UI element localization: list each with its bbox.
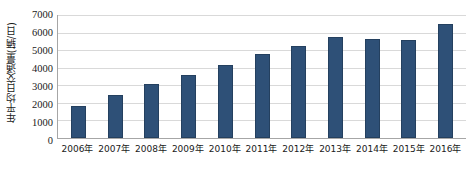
y-axis-tick-labels: 01000200030004000500060007000 xyxy=(20,14,56,140)
y-axis-tick-label: 3000 xyxy=(32,81,53,92)
bar xyxy=(255,54,270,138)
bar xyxy=(365,39,380,138)
y-axis-tick-label: 0 xyxy=(48,135,53,146)
x-axis-tick-label: 2015年 xyxy=(390,142,427,155)
x-axis-tick-label: 2016年 xyxy=(427,142,464,155)
x-axis-tick-label: 2009年 xyxy=(169,142,206,155)
x-axis-tick-label: 2013年 xyxy=(317,142,354,155)
bar-slot xyxy=(280,15,317,138)
y-axis-tick-label: 7000 xyxy=(32,9,53,20)
plot-area xyxy=(57,15,466,139)
bar-series xyxy=(58,15,466,138)
bar xyxy=(144,84,159,138)
bar xyxy=(71,106,86,138)
y-axis-tick-label: 2000 xyxy=(32,99,53,110)
bar-slot xyxy=(207,15,244,138)
bar-slot xyxy=(133,15,170,138)
bar xyxy=(438,24,453,138)
y-axis-tick-label: 4000 xyxy=(32,63,53,74)
bar-slot xyxy=(427,15,464,138)
y-axis-tick-label: 6000 xyxy=(32,27,53,38)
bar-slot xyxy=(317,15,354,138)
bar-slot xyxy=(244,15,281,138)
x-axis-tick-label: 2011年 xyxy=(243,142,280,155)
bar-slot xyxy=(60,15,97,138)
y-axis-tick-label: 5000 xyxy=(32,45,53,56)
x-axis-tick-label: 2012年 xyxy=(280,142,317,155)
chart-figure: 年平均日交通量(辆/日) 010002000300040005000600070… xyxy=(0,0,471,172)
x-axis-tick-label: 2007年 xyxy=(96,142,133,155)
bar xyxy=(108,95,123,138)
x-axis-tick-label: 2010年 xyxy=(206,142,243,155)
x-axis-tick-label: 2014年 xyxy=(354,142,391,155)
bar xyxy=(401,40,416,138)
bar-slot xyxy=(170,15,207,138)
bar xyxy=(181,75,196,138)
x-axis-tick-labels: 2006年2007年2008年2009年2010年2011年2012年2013年… xyxy=(57,142,466,155)
bar xyxy=(291,46,306,138)
y-axis-tick-label: 1000 xyxy=(32,117,53,128)
x-axis-tick-label: 2006年 xyxy=(59,142,96,155)
bar-slot xyxy=(97,15,134,138)
bar xyxy=(218,65,233,138)
y-axis-title-text: 年平均日交通量(辆/日) xyxy=(7,22,17,123)
bar-slot xyxy=(354,15,391,138)
x-axis-tick-label: 2008年 xyxy=(133,142,170,155)
bar-slot xyxy=(391,15,428,138)
bar xyxy=(328,37,343,138)
